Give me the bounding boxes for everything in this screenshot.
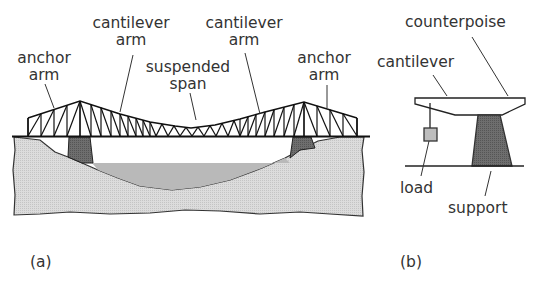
label-line: arm <box>194 32 294 49</box>
label-anchor-arm-left: anchor arm <box>14 50 74 84</box>
label-line: anchor <box>14 50 74 67</box>
label-line: cantilever <box>86 15 176 32</box>
label-line: suspended <box>138 59 238 76</box>
caption-a: (a) <box>30 254 52 271</box>
label-support: support <box>448 200 508 217</box>
pier-left <box>68 137 93 163</box>
label-line: arm <box>14 67 74 84</box>
label-cantilever: cantilever <box>377 54 454 71</box>
label-line: arm <box>86 32 176 49</box>
label-line: span <box>138 76 238 93</box>
label-load: load <box>400 180 433 197</box>
label-line: cantilever <box>194 15 294 32</box>
label-counterpoise: counterpoise <box>405 14 506 31</box>
label-cantilever-arm-right: cantilever arm <box>194 15 294 49</box>
label-cantilever-arm-left: cantilever arm <box>86 15 176 49</box>
label-suspended-span: suspended span <box>138 59 238 93</box>
label-line: anchor <box>289 50 359 67</box>
caption-b: (b) <box>400 254 422 271</box>
label-anchor-arm-right: anchor arm <box>289 50 359 84</box>
label-line: arm <box>289 67 359 84</box>
